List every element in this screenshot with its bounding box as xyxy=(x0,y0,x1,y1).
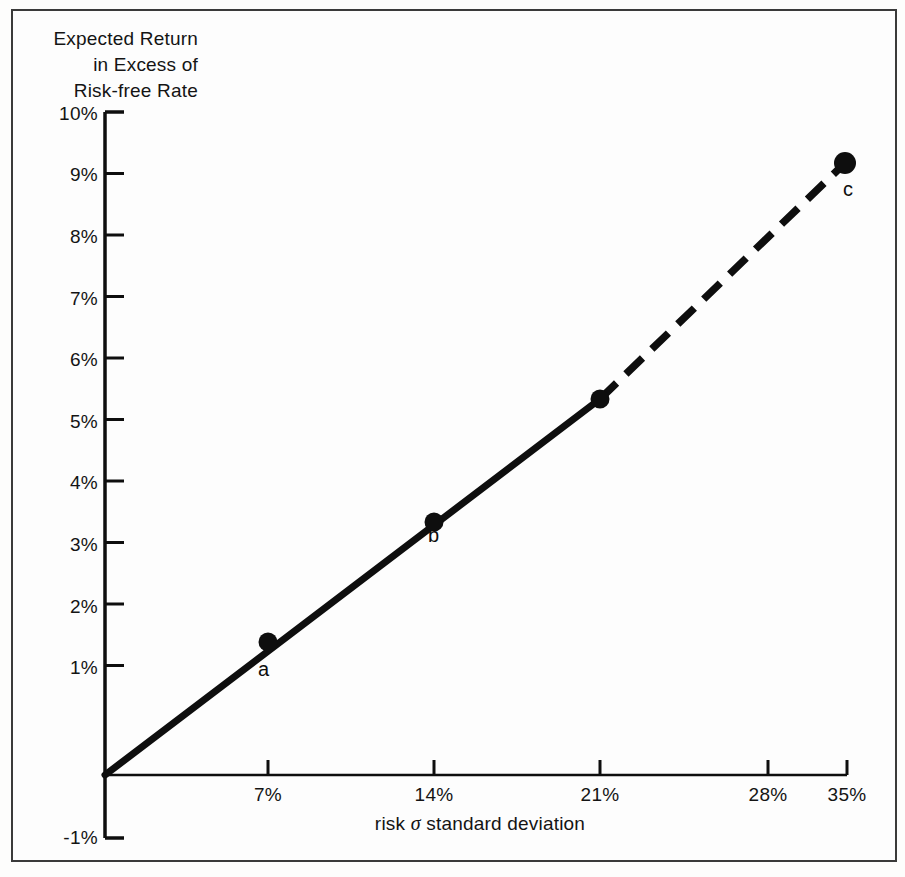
figure-page: Expected Return in Excess of Risk-free R… xyxy=(0,0,905,877)
chart-plot-area xyxy=(0,0,905,877)
data-point-c xyxy=(834,152,856,174)
series-line-dashed xyxy=(600,163,845,399)
data-point-21 xyxy=(591,390,610,409)
data-point-a xyxy=(259,633,278,652)
series-line-solid xyxy=(105,399,600,775)
data-point-b xyxy=(425,513,444,532)
